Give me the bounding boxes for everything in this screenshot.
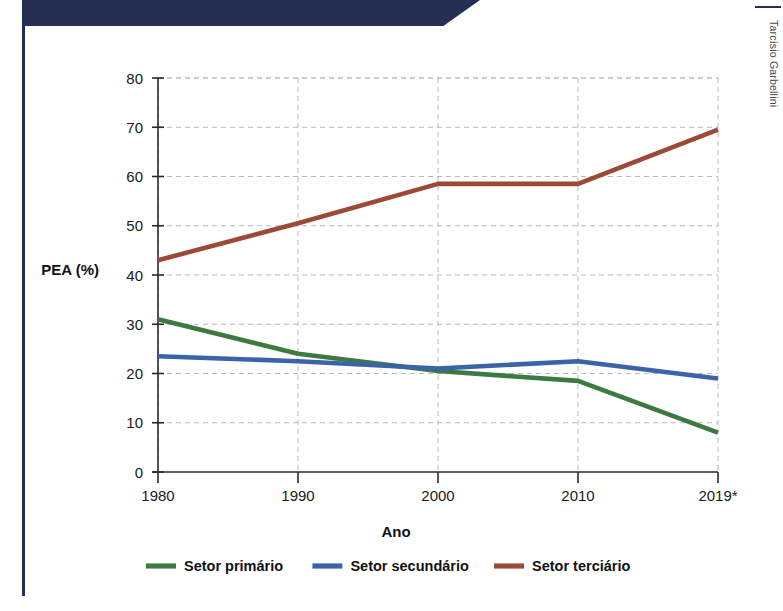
y-tick-labels-group: 01020304050607080 [126,70,143,481]
x-tick-label: 1990 [281,487,314,504]
y-tick-label: 60 [126,168,143,185]
y-tick-label: 50 [126,217,143,234]
x-tick-label: 2010 [561,487,594,504]
y-tick-label: 20 [126,365,143,382]
x-axis-title: Ano [381,523,410,540]
y-tick-label: 0 [135,464,143,481]
legend-label: Setor primário [184,558,283,574]
y-tick-label: 30 [126,316,143,333]
y-tick-label: 10 [126,414,143,431]
pea-line-chart: 01020304050607080 19801990200020102019* … [0,0,783,611]
x-tick-labels-group: 19801990200020102019* [141,487,737,504]
legend-label: Setor secundário [350,558,469,574]
x-tick-label: 1980 [141,487,174,504]
legend-group: Setor primárioSetor secundárioSetor terc… [146,558,630,574]
gridlines-group [158,78,718,472]
chart-svg: 01020304050607080 19801990200020102019* … [0,0,783,611]
tick-marks-group [152,78,718,483]
y-axis-title: PEA (%) [41,261,99,278]
legend-label: Setor terciário [532,558,630,574]
x-tick-label: 2000 [421,487,454,504]
y-tick-label: 40 [126,267,143,284]
y-tick-label: 70 [126,119,143,136]
y-tick-label: 80 [126,70,143,87]
x-tick-label: 2019* [698,487,737,504]
